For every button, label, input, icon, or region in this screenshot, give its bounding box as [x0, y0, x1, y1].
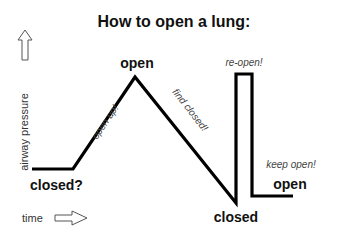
state-label-start: closed? — [30, 177, 83, 193]
x-axis-label: time — [22, 212, 43, 224]
annotation-rise: open up! — [90, 103, 121, 142]
y-axis-label: airway pressure — [18, 93, 30, 171]
state-label-end: open — [273, 176, 306, 192]
state-label-trough: closed — [214, 209, 258, 225]
annotation-pulse: re-open! — [225, 57, 262, 68]
lung-opening-diagram: How to open a lung: airway pressure time… — [0, 0, 340, 236]
up-arrow-icon — [18, 30, 32, 60]
right-arrow-icon — [55, 211, 87, 225]
state-label-peak: open — [120, 55, 153, 71]
diagram-title: How to open a lung: — [98, 13, 251, 30]
annotation-hold: keep open! — [266, 159, 316, 170]
